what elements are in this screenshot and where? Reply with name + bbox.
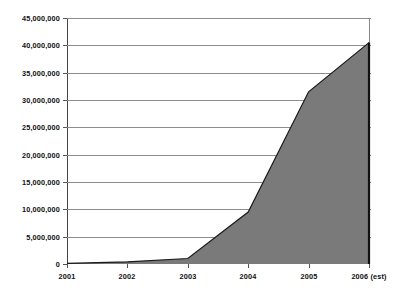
y-axis-label: 15,000,000: [2, 178, 60, 187]
x-axis-label: 2001: [59, 272, 76, 281]
x-axis-label: 2005: [301, 272, 318, 281]
x-tick-mark: [67, 264, 68, 268]
x-tick-mark: [369, 264, 370, 268]
y-tick-mark: [63, 182, 67, 183]
y-axis-label: 30,000,000: [2, 96, 60, 105]
y-tick-mark: [63, 127, 67, 128]
x-axis-label: 2006 (est): [351, 272, 386, 281]
x-tick-mark: [309, 264, 310, 268]
y-axis-label: 20,000,000: [2, 151, 60, 160]
gridline-25000000: [67, 127, 371, 128]
plot-area: [67, 18, 370, 264]
y-axis-label: 0: [2, 260, 60, 269]
gridline-5000000: [67, 237, 371, 238]
x-axis-label: 2004: [240, 272, 257, 281]
y-axis-label: 40,000,000: [2, 41, 60, 50]
area-chart: 45,000,000 40,000,000 35,000,000 30,000,…: [0, 0, 403, 298]
gridline-35000000: [67, 73, 371, 74]
x-axis-label: 2002: [119, 272, 136, 281]
gridline-45000000: [67, 18, 371, 19]
y-axis-label: 35,000,000: [2, 69, 60, 78]
y-tick-mark: [63, 45, 67, 46]
gridline-40000000: [67, 45, 371, 46]
y-tick-mark: [63, 73, 67, 74]
gridline-15000000: [67, 182, 371, 183]
y-tick-mark: [63, 209, 67, 210]
y-axis-label: 25,000,000: [2, 123, 60, 132]
y-tick-mark: [63, 155, 67, 156]
x-tick-mark: [127, 264, 128, 268]
y-axis-label: 10,000,000: [2, 205, 60, 214]
gridline-30000000: [67, 100, 371, 101]
x-tick-mark: [188, 264, 189, 268]
x-axis-label: 2003: [180, 272, 197, 281]
gridline-20000000: [67, 155, 371, 156]
x-tick-mark: [248, 264, 249, 268]
gridline-10000000: [67, 209, 371, 210]
y-tick-mark: [63, 18, 67, 19]
y-axis-label: 45,000,000: [2, 14, 60, 23]
y-tick-mark: [63, 237, 67, 238]
y-axis-label: 5,000,000: [2, 233, 60, 242]
y-tick-mark: [63, 100, 67, 101]
